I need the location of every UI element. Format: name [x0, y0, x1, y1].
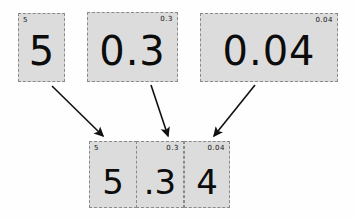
result-card-ones-value: 5 [90, 163, 136, 201]
source-card-hundredths-value: 0.04 [201, 29, 337, 73]
source-card-ones[interactable]: 5 5 [18, 13, 65, 82]
source-card-hundredths[interactable]: 0.04 0.04 [200, 13, 338, 82]
diagram-canvas: 5 5 0.3 0.3 0.04 0.04 5 5 0.3 .3 0.04 4 [0, 0, 354, 220]
result-card-tenths-value: .3 [137, 163, 183, 201]
source-card-tenths[interactable]: 0.3 0.3 [87, 12, 178, 82]
result-card-ones-tag: 5 [94, 144, 99, 153]
result-card-tenths-tag: 0.3 [166, 144, 179, 153]
source-card-hundredths-tag: 0.04 [315, 16, 333, 25]
source-card-ones-value: 5 [19, 29, 64, 73]
source-card-ones-tag: 5 [23, 16, 28, 25]
source-card-tenths-value: 0.3 [88, 29, 177, 73]
arrow-tenths-to-result [151, 85, 168, 136]
result-card-hundredths-value: 4 [185, 163, 229, 201]
result-card-hundredths-tag: 0.04 [207, 144, 225, 153]
arrow-hundredths-to-result [214, 85, 255, 136]
result-card-tenths[interactable]: 0.3 .3 [136, 141, 184, 208]
result-card-ones[interactable]: 5 5 [89, 141, 137, 208]
result-card-hundredths[interactable]: 0.04 4 [184, 141, 230, 208]
arrow-ones-to-result [52, 86, 103, 136]
source-card-tenths-tag: 0.3 [160, 15, 173, 24]
